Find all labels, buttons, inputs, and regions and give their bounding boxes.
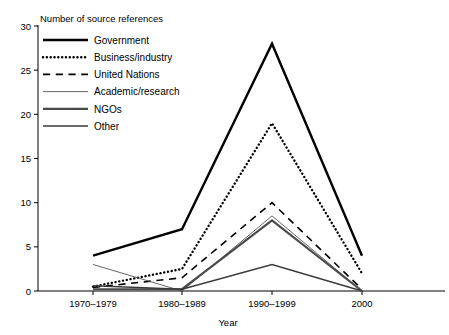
y-axis-tick-label: 15 xyxy=(20,153,31,164)
series-line xyxy=(93,220,362,291)
y-axis-tick-label: 30 xyxy=(20,21,31,32)
x-axis-title-label: Year xyxy=(218,317,237,328)
y-axis: 051015202530 xyxy=(20,21,38,297)
y-axis-title-label: Number of source references xyxy=(40,13,163,24)
y-axis-tick-label: 0 xyxy=(26,286,31,297)
x-axis-tick-label: 1990–1999 xyxy=(248,298,296,309)
y-axis-tick-label: 5 xyxy=(26,241,31,252)
legend-label: Other xyxy=(94,121,120,132)
legend-label: NGOs xyxy=(94,104,122,115)
legend-label: United Nations xyxy=(94,69,160,80)
y-axis-tick-label: 25 xyxy=(20,65,31,76)
y-axis-title: Number of source references xyxy=(40,13,163,24)
series-line xyxy=(93,123,362,286)
y-axis-tick-label: 20 xyxy=(20,109,31,120)
x-axis-tick-label: 2000 xyxy=(351,298,372,309)
x-axis: 1970–19791980–19891990–19992000 xyxy=(38,291,445,309)
chart-canvas: Number of source references 051015202530… xyxy=(0,0,449,335)
y-axis-tick-label: 10 xyxy=(20,197,31,208)
legend-label: Government xyxy=(94,35,149,46)
legend-label: Academic/research xyxy=(94,86,180,97)
data-series-group xyxy=(93,44,362,291)
chart-legend: GovernmentBusiness/industryUnited Nation… xyxy=(43,35,180,132)
x-axis-title: Year xyxy=(218,317,237,328)
x-axis-tick-label: 1970–1979 xyxy=(69,298,117,309)
line-chart: Number of source references 051015202530… xyxy=(0,0,449,335)
legend-label: Business/industry xyxy=(94,52,172,63)
x-axis-tick-label: 1980–1989 xyxy=(158,298,206,309)
